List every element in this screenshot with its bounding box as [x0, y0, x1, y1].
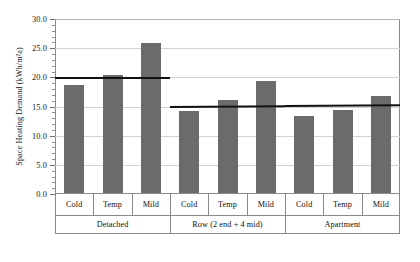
group-label-band: DetachedRow (2 end + 4 mid)Apartment — [55, 215, 400, 234]
category-label-band: ColdTempMildColdTempMildColdTempMild — [55, 194, 400, 216]
bar-apartment-mild — [371, 96, 391, 193]
category-label-mild: Mild — [362, 194, 400, 215]
y-tick-label: 20.0 — [32, 73, 47, 82]
y-tick-label: 5.0 — [36, 160, 47, 169]
group-separator — [285, 215, 286, 234]
category-separator — [323, 194, 324, 215]
group-separator — [170, 215, 171, 234]
plot-area: 30.025.020.015.010.05.00.0 — [55, 19, 400, 194]
y-tick-label: 25.0 — [32, 44, 47, 53]
category-separator — [208, 194, 209, 215]
category-separator — [247, 194, 248, 215]
y-tick-label: 0.0 — [36, 190, 47, 199]
reference-line-detached — [55, 77, 170, 79]
y-axis-title-text: Space Heating Demand (kWh/m²a) — [15, 47, 24, 165]
group-separator — [170, 194, 171, 215]
category-separator — [362, 194, 363, 215]
group-label-apartment: Apartment — [285, 215, 400, 234]
group-separator — [285, 194, 286, 215]
y-axis-title: Space Heating Demand (kWh/m²a) — [12, 19, 26, 194]
category-label-temp: Temp — [208, 194, 246, 215]
category-label-cold: Cold — [170, 194, 208, 215]
category-separator — [132, 194, 133, 215]
reference-line-row-2-end-4-mid — [170, 105, 285, 108]
category-label-temp: Temp — [93, 194, 131, 215]
bar-apartment-temp — [333, 110, 353, 193]
category-label-temp: Temp — [323, 194, 361, 215]
bar-detached-cold — [64, 85, 84, 193]
category-label-cold: Cold — [55, 194, 93, 215]
bar-row-2-end-4-mid-mild — [256, 81, 276, 193]
y-tick-label: 15.0 — [32, 102, 47, 111]
category-label-cold: Cold — [285, 194, 323, 215]
bar-apartment-cold — [294, 116, 314, 193]
bar-row-2-end-4-mid-cold — [179, 111, 199, 193]
y-tick-label: 30.0 — [32, 15, 47, 24]
bar-row-2-end-4-mid-temp — [218, 100, 238, 193]
group-label-row-2-end-4-mid: Row (2 end + 4 mid) — [170, 215, 285, 234]
bar-detached-mild — [141, 43, 161, 193]
y-tick-label: 10.0 — [32, 131, 47, 140]
bar-detached-temp — [103, 75, 123, 193]
category-label-mild: Mild — [247, 194, 285, 215]
category-label-mild: Mild — [132, 194, 170, 215]
space-heating-demand-bar-chart: Space Heating Demand (kWh/m²a) 30.025.02… — [0, 0, 420, 262]
group-label-detached: Detached — [55, 215, 170, 234]
category-separator — [93, 194, 94, 215]
